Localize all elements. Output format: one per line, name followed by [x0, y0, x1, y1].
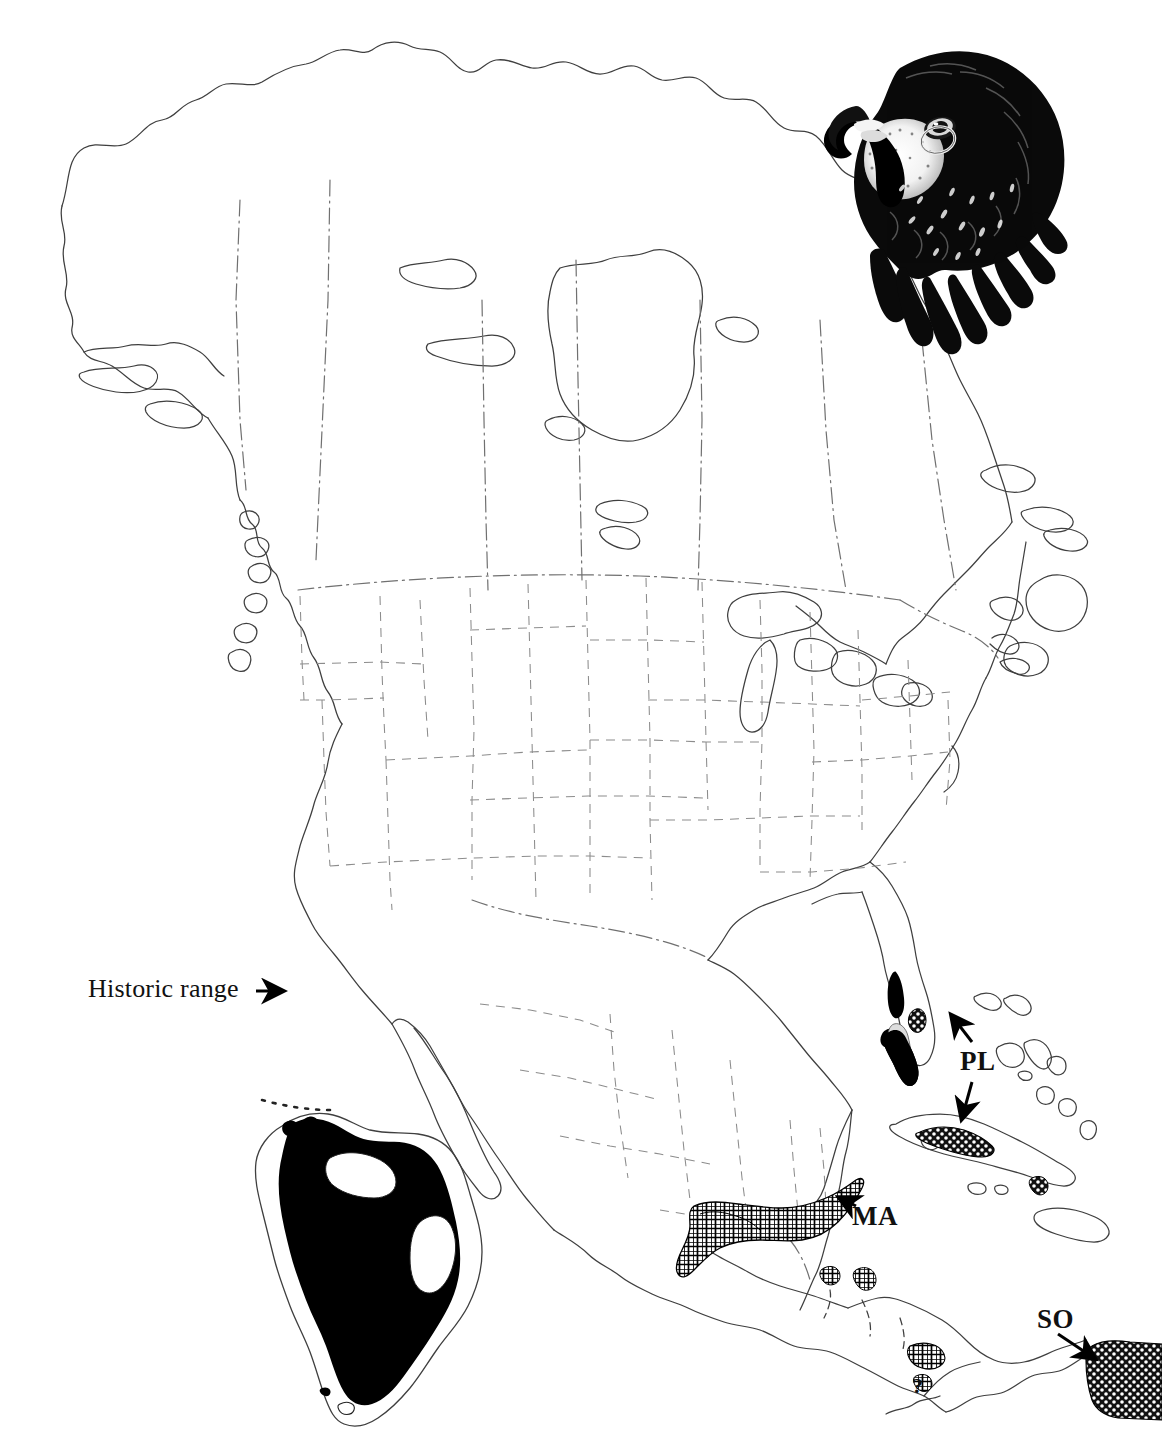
- range-map-figure: Historic range PL MA SO ?: [0, 0, 1162, 1443]
- uncertain-range-marker: ?: [912, 1375, 923, 1397]
- pl-label: PL: [960, 1048, 996, 1075]
- ma-label: MA: [852, 1203, 898, 1230]
- so-label: SO: [1037, 1306, 1074, 1333]
- peregrine-falcon-head-illustration: [0, 0, 1162, 1443]
- historic-range-label: Historic range: [88, 976, 239, 1002]
- falcon-head-group: [824, 51, 1068, 354]
